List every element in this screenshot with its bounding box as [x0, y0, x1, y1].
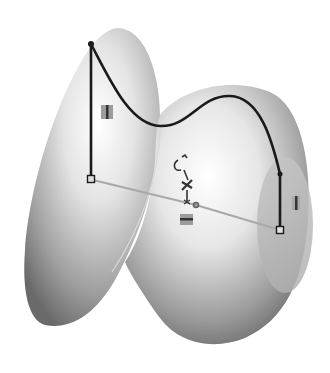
left-profile-endpoint-handle[interactable]: [88, 176, 95, 183]
spline-start-point[interactable]: [88, 41, 94, 47]
vertical-bar-marker-icon[interactable]: [101, 105, 113, 119]
right-profile-endpoint-handle[interactable]: [277, 227, 284, 234]
surface-model-view: [0, 0, 330, 373]
horizontal-bar-marker-icon[interactable]: [180, 214, 193, 225]
vertical-bar-marker-icon[interactable]: [292, 196, 300, 210]
spline-end-point[interactable]: [278, 172, 283, 177]
